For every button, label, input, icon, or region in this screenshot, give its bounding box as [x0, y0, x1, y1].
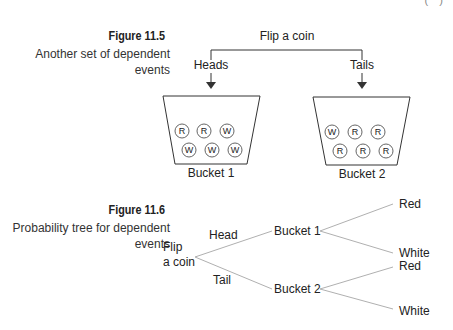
leaf-white-2: White: [399, 304, 430, 318]
edge-head-label: Head: [209, 228, 238, 242]
leaf-white-1: White: [399, 246, 430, 260]
svg-text:W: W: [223, 126, 232, 136]
heads-label: Heads: [194, 58, 229, 72]
node-bucket-2: Bucket 2: [274, 282, 321, 296]
leaf-red-2: Red: [399, 259, 421, 273]
svg-text:W: W: [328, 127, 337, 137]
bucket-2-label: Bucket 2: [339, 167, 386, 181]
figure-11-5-diagram: Flip a coin Heads Tails R R W W W W Buck…: [0, 0, 453, 185]
bucket-2: W R R R R R Bucket 2: [313, 97, 410, 181]
arrow-down-icon: [357, 82, 367, 89]
svg-text:W: W: [208, 145, 217, 155]
arrow-down-icon: [206, 82, 216, 89]
bucket-1: R R W W W W Bucket 1: [163, 96, 260, 180]
bucket-1-label: Bucket 1: [188, 166, 235, 180]
figure-11-6-tree: Flip a coin Head Tail Bucket 1 Bucket 2 …: [0, 185, 453, 330]
root-label: Flip a coin: [260, 29, 315, 43]
svg-text:R: R: [360, 146, 367, 156]
tree-root-line2: a coin: [163, 255, 195, 269]
edge-tail-label: Tail: [213, 273, 231, 287]
svg-text:R: R: [352, 127, 359, 137]
svg-text:W: W: [185, 145, 194, 155]
svg-text:R: R: [337, 146, 344, 156]
svg-text:R: R: [375, 127, 382, 137]
svg-text:W: W: [231, 145, 240, 155]
leaf-red-1: Red: [399, 197, 421, 211]
node-bucket-1: Bucket 1: [274, 224, 321, 238]
svg-text:R: R: [201, 126, 208, 136]
svg-text:R: R: [179, 126, 186, 136]
svg-text:R: R: [383, 146, 390, 156]
tails-label: Tails: [350, 58, 374, 72]
tree-root-line1: Flip: [163, 240, 183, 254]
